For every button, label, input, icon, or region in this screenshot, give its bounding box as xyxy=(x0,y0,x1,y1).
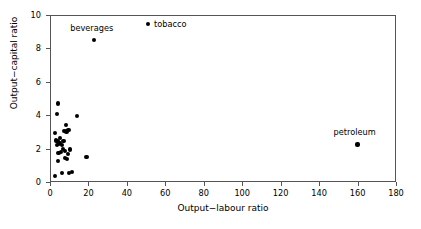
data-point xyxy=(61,139,65,143)
x-tick-mark xyxy=(358,182,359,186)
x-tick-label: 40 xyxy=(122,188,132,198)
x-tick-label: 180 xyxy=(388,188,404,198)
data-point xyxy=(60,171,64,175)
x-tick-mark xyxy=(319,182,320,186)
x-tick-label: 140 xyxy=(311,188,327,198)
y-tick-label: 6 xyxy=(0,77,41,87)
y-tick-mark xyxy=(46,15,50,16)
data-point xyxy=(75,114,79,118)
x-tick-mark xyxy=(204,182,205,186)
x-tick-mark xyxy=(127,182,128,186)
annotation-petroleum: petroleum xyxy=(334,128,376,136)
x-tick-mark xyxy=(50,182,51,186)
x-tick-mark xyxy=(281,182,282,186)
y-tick-label: 10 xyxy=(0,10,41,20)
x-tick-label: 60 xyxy=(160,188,170,198)
x-tick-label: 160 xyxy=(350,188,366,198)
x-tick-label: 100 xyxy=(234,188,250,198)
data-point xyxy=(68,147,72,151)
x-axis-label: Output−labour ratio xyxy=(50,203,396,213)
data-point xyxy=(65,157,69,161)
y-tick-label: 4 xyxy=(0,110,41,120)
y-tick-label: 0 xyxy=(0,177,41,187)
data-point xyxy=(56,159,60,163)
y-tick-label: 2 xyxy=(0,144,41,154)
data-point xyxy=(92,38,96,42)
data-point xyxy=(55,112,59,116)
y-tick-label: 8 xyxy=(0,43,41,53)
y-tick-mark xyxy=(46,149,50,150)
data-point xyxy=(56,101,60,105)
y-tick-mark xyxy=(46,82,50,83)
x-tick-label: 120 xyxy=(273,188,289,198)
x-tick-mark xyxy=(165,182,166,186)
data-point xyxy=(64,123,68,127)
y-tick-mark xyxy=(46,182,50,183)
x-tick-mark xyxy=(242,182,243,186)
data-point xyxy=(56,151,60,155)
x-tick-label: 20 xyxy=(83,188,93,198)
data-point xyxy=(66,152,70,156)
data-point xyxy=(53,131,57,135)
data-point xyxy=(53,174,57,178)
x-tick-mark xyxy=(396,182,397,186)
x-tick-label: 80 xyxy=(199,188,209,198)
y-axis-label: Output−capital ratio xyxy=(9,0,19,143)
y-tick-mark xyxy=(46,48,50,49)
x-tick-mark xyxy=(88,182,89,186)
data-point xyxy=(355,142,359,146)
annotation-tobacco: tobacco xyxy=(154,20,186,28)
data-point xyxy=(146,22,150,26)
data-point xyxy=(70,170,74,174)
data-point xyxy=(64,129,68,133)
data-point xyxy=(84,155,88,159)
annotation-beverages: beverages xyxy=(70,24,113,32)
data-points-layer xyxy=(50,15,396,182)
scatter-plot-figure: 020406080100120140160180 0246810 tobacco… xyxy=(0,0,421,229)
y-tick-mark xyxy=(46,115,50,116)
x-tick-label: 0 xyxy=(47,188,52,198)
